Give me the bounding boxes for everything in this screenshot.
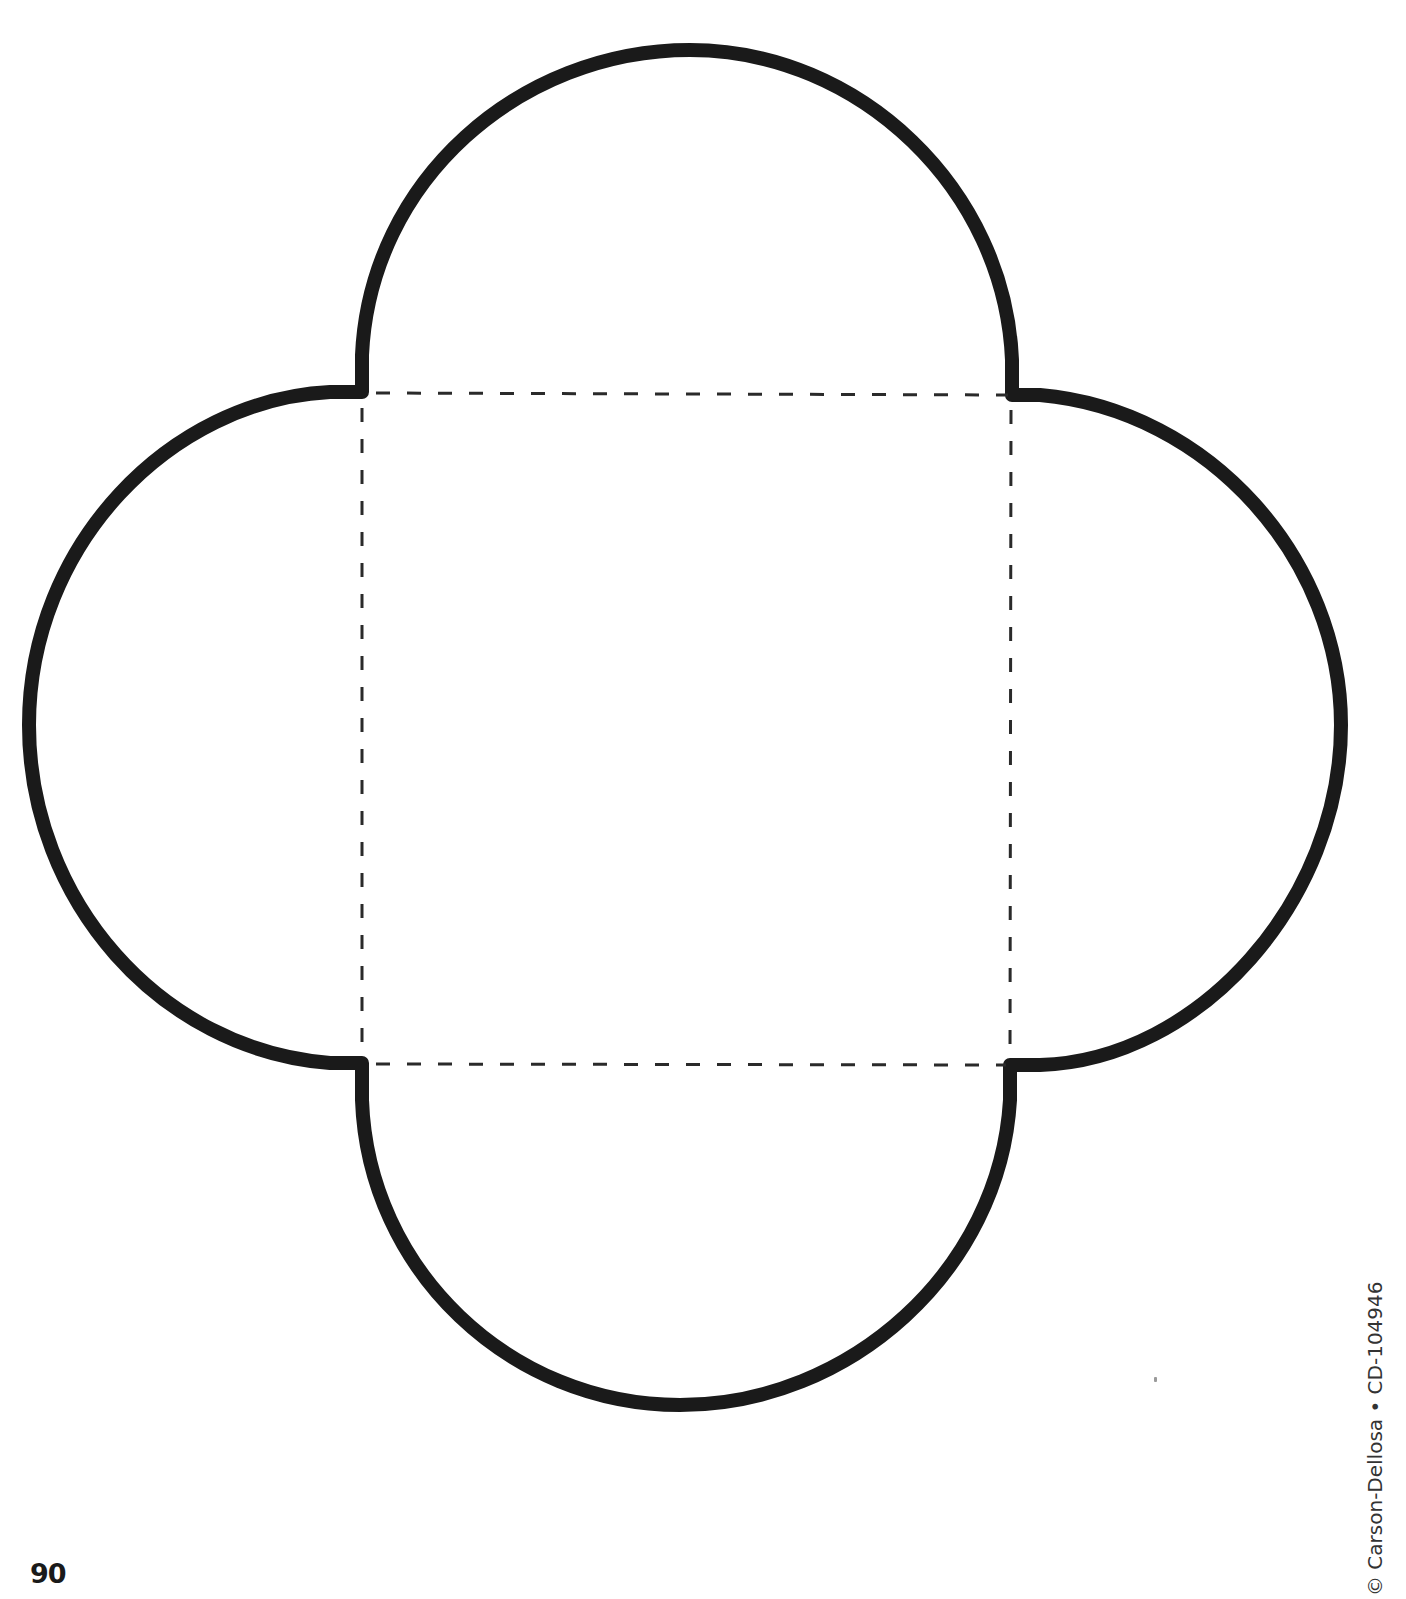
- worksheet-page: 90 © Carson-Dellosa • CD-104946: [0, 0, 1406, 1599]
- envelope-template: [0, 0, 1406, 1599]
- fold-line-top: [376, 393, 1008, 395]
- scan-speck: [1154, 1377, 1157, 1382]
- fold-line-bottom: [376, 1064, 1006, 1065]
- copyright-notice: © Carson-Dellosa • CD-104946: [1365, 1281, 1385, 1596]
- page-number: 90: [30, 1560, 66, 1587]
- envelope-outline: [29, 50, 1341, 1405]
